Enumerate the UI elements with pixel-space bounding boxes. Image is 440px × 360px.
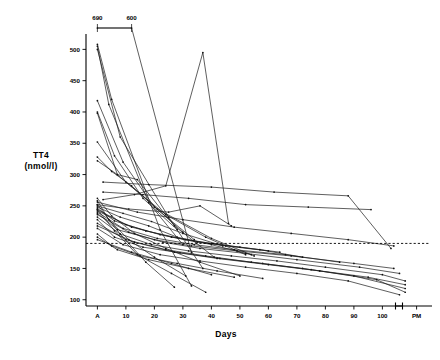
offscale-value-labels: 690600 [92, 14, 137, 21]
svg-text:A: A [95, 312, 100, 319]
svg-text:50: 50 [236, 312, 243, 319]
y-axis-title: TT4 (nmol/l) [8, 150, 74, 172]
x-axis-tick-labels: A102030405060708090100PM [95, 312, 421, 319]
svg-text:90: 90 [350, 312, 357, 319]
x-axis-title: Days [196, 329, 256, 340]
svg-text:20: 20 [151, 312, 158, 319]
y-axis-title-line2: (nmol/l) [8, 161, 74, 172]
svg-text:250: 250 [70, 202, 81, 209]
svg-text:150: 150 [70, 265, 81, 272]
svg-text:PM: PM [412, 312, 421, 319]
svg-text:600: 600 [126, 14, 137, 21]
chart-canvas: 100150200250300350400450500 A10203040506… [0, 0, 440, 360]
svg-text:690: 690 [92, 14, 103, 21]
svg-text:400: 400 [70, 108, 81, 115]
axis-lines [83, 34, 433, 310]
svg-text:500: 500 [70, 46, 81, 53]
y-axis-tick-labels: 100150200250300350400450500 [70, 46, 81, 303]
svg-text:350: 350 [70, 139, 81, 146]
svg-text:30: 30 [179, 312, 186, 319]
svg-text:100: 100 [70, 296, 81, 303]
data-traces [97, 27, 407, 295]
svg-text:10: 10 [122, 312, 129, 319]
svg-text:70: 70 [293, 312, 300, 319]
svg-text:200: 200 [70, 233, 81, 240]
chart-figure: 100150200250300350400450500 A10203040506… [0, 0, 440, 360]
svg-text:60: 60 [265, 312, 272, 319]
svg-text:100: 100 [377, 312, 388, 319]
svg-text:450: 450 [70, 77, 81, 84]
svg-text:80: 80 [322, 312, 329, 319]
y-axis-title-line1: TT4 [8, 150, 74, 161]
svg-text:40: 40 [208, 312, 215, 319]
